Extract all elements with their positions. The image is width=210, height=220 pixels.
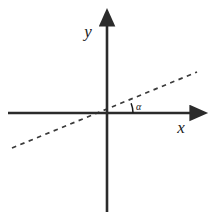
y-axis-label: y [82,22,92,41]
math-diagram-figure: y x α [0,0,210,220]
angle-alpha-label: α [136,101,142,112]
coordinate-plane-svg: y x α [0,0,210,220]
angle-arc [131,103,133,113]
x-axis-label: x [176,118,185,137]
dashed-line-through-origin [12,72,197,148]
